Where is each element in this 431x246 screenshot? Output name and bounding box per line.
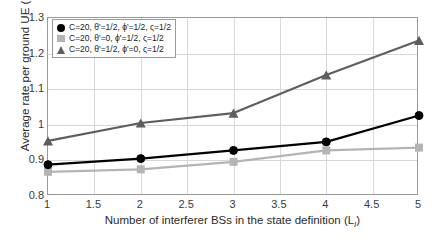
legend-item[interactable]: C=20, θ'=0, ϕ'=1/2, ς=1/2 [56, 33, 171, 44]
data-point-marker [44, 161, 52, 169]
data-point-marker [321, 70, 331, 79]
data-point-marker [137, 165, 145, 173]
series-line [48, 116, 419, 165]
triangle-glyph [57, 46, 65, 54]
data-point-marker [414, 36, 424, 45]
circle-glyph [57, 24, 65, 32]
data-point-marker [415, 144, 423, 152]
x-tick-label: 3 [213, 198, 253, 210]
x-tick-label: 2.5 [166, 198, 206, 210]
circle-marker-icon [56, 22, 69, 33]
triangle-marker-icon [56, 44, 69, 55]
x-axis-tick-labels: 11.522.533.544.55 [47, 198, 418, 212]
legend-item[interactable]: C=20, θ'=1/2, ϕ'=0, ς=1/2 [56, 44, 171, 55]
x-tick-label: 1 [27, 198, 67, 210]
legend-item-label: C=20, θ'=1/2, ϕ'=0, ς=1/2 [69, 44, 164, 55]
square-glyph [57, 35, 65, 42]
legend: C=20, θ'=1/2, ϕ'=1/2, ς=1/2C=20, θ'=0, ϕ… [52, 19, 176, 58]
legend-item-label: C=20, θ'=1/2, ϕ'=1/2, ς=1/2 [69, 22, 171, 33]
x-tick-label: 2 [120, 198, 160, 210]
legend-item-label: C=20, θ'=0, ϕ'=1/2, ς=1/2 [69, 33, 164, 44]
data-point-marker [230, 158, 238, 166]
y-axis-title: Average rate per ground UE (Mbps) [19, 0, 31, 155]
data-point-marker [322, 146, 330, 154]
y-tick-label: 0.9 [0, 154, 44, 165]
data-point-marker [230, 146, 238, 154]
x-tick-label: 4 [305, 198, 345, 210]
chart-figure: 0.80.911.11.21.3 Average rate per ground… [0, 0, 431, 246]
data-point-marker [322, 138, 330, 146]
x-tick-label: 5 [398, 198, 431, 210]
legend-item[interactable]: C=20, θ'=1/2, ϕ'=1/2, ς=1/2 [56, 22, 171, 33]
data-point-marker [137, 155, 145, 163]
x-tick-label: 1.5 [73, 198, 113, 210]
x-tick-label: 3.5 [259, 198, 299, 210]
x-axis-title: Number of interferer BSs in the state de… [47, 214, 418, 229]
x-tick-label: 4.5 [352, 198, 392, 210]
square-marker-icon [56, 33, 69, 44]
data-point-marker [415, 112, 423, 120]
x-axis-title-main: Number of interferer BSs in the state de… [105, 214, 354, 226]
x-axis-title-tail: ) [356, 214, 360, 226]
